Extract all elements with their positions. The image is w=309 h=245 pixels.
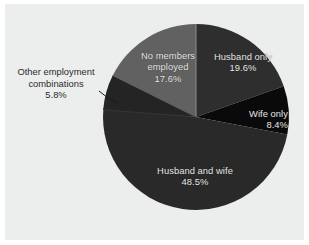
pie-label-husband-and-wife: Husband and wife 48.5% xyxy=(130,165,260,188)
pie-label-no-members-employed: No members employed 17.6% xyxy=(125,50,211,84)
pie-label-husband-only: Husband only 19.6% xyxy=(203,51,283,74)
pie-label-other-employment-combinations: Other employment combinations 5.8% xyxy=(3,66,109,101)
pie-label-wife-only: Wife only 8.4% xyxy=(216,108,288,131)
pie-chart-figure: No members employed 17.6% Husband only 1… xyxy=(0,0,309,245)
